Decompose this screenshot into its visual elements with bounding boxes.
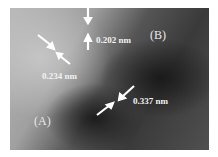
spacing-label-0337: 0.337 nm bbox=[133, 96, 168, 106]
region-label-b: (B) bbox=[150, 28, 166, 43]
spacing-label-0202: 0.202 nm bbox=[96, 35, 131, 45]
micrograph: 0.202 nm 0.234 nm 0.337 nm (B) (A) bbox=[10, 8, 209, 150]
region-label-a: (A) bbox=[34, 114, 51, 129]
spacing-label-0234: 0.234 nm bbox=[42, 71, 77, 81]
